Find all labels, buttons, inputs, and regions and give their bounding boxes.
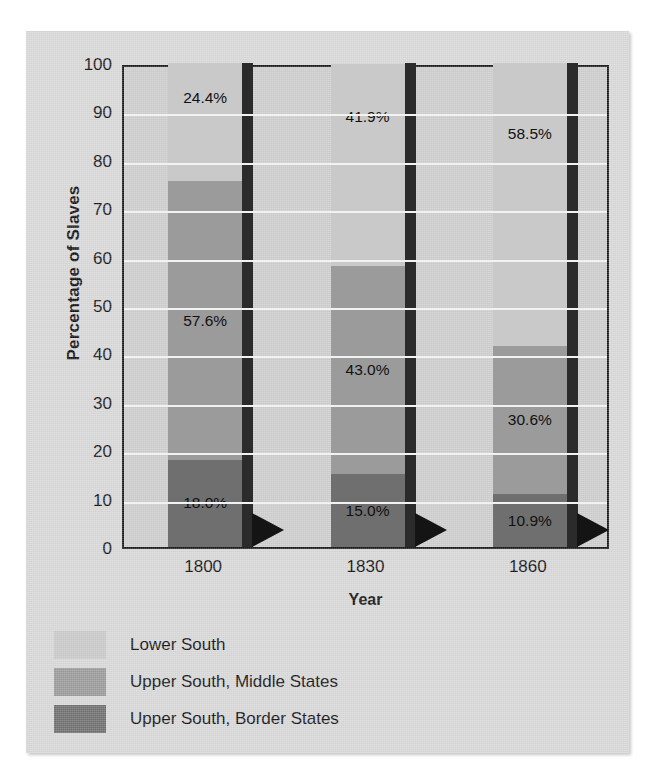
figure-card: Percentage of Slaves 0102030405060708090…	[26, 31, 629, 753]
bar-group-1800[interactable]: 18.0%57.6%24.4%	[168, 67, 242, 547]
bar-segment-1830-1[interactable]: 43.0%	[331, 266, 405, 474]
bar-stack: 15.0%43.0%41.9%	[331, 67, 405, 547]
bar-group-1860[interactable]: 10.9%30.6%58.5%	[493, 67, 567, 547]
y-axis-tick-100: 100	[84, 55, 112, 75]
bar-series-layer: 18.0%57.6%24.4%15.0%43.0%41.9%10.9%30.6%…	[124, 67, 607, 547]
y-axis-tick-10: 10	[93, 491, 112, 511]
x-axis-tick-labels: 180018301860	[122, 557, 609, 583]
y-axis-tick-0: 0	[103, 539, 112, 559]
bar-arrow-icon	[252, 513, 284, 547]
bar-arrow-icon	[415, 513, 447, 547]
bar-value-label: 18.0%	[168, 494, 242, 512]
legend-item-2[interactable]: Upper South, Border States	[54, 700, 614, 737]
bar-value-label: 43.0%	[331, 361, 405, 379]
bar-value-label: 24.4%	[168, 89, 242, 107]
bar-segment-1830-0[interactable]: 41.9%	[331, 64, 405, 267]
y-axis-tick-30: 30	[93, 394, 112, 414]
chart-legend: Lower SouthUpper South, Middle StatesUpp…	[54, 626, 614, 737]
bar-shadow	[567, 63, 578, 547]
bar-stack: 18.0%57.6%24.4%	[168, 67, 242, 547]
bar-group-1830[interactable]: 15.0%43.0%41.9%	[331, 67, 405, 547]
y-axis-tick-80: 80	[93, 152, 112, 172]
y-axis-tick-90: 90	[93, 103, 112, 123]
bar-value-label: 58.5%	[493, 125, 567, 143]
bar-segment-1800-1[interactable]: 57.6%	[168, 181, 242, 460]
legend-swatch-1	[54, 668, 106, 696]
bar-value-label: 10.9%	[493, 512, 567, 530]
legend-item-1[interactable]: Upper South, Middle States	[54, 663, 614, 700]
bar-segment-1860-0[interactable]: 58.5%	[493, 63, 567, 346]
legend-label-0: Lower South	[130, 635, 225, 655]
x-axis-tick-1830: 1830	[347, 557, 385, 577]
y-axis-tick-50: 50	[93, 297, 112, 317]
legend-label-2: Upper South, Border States	[130, 709, 339, 729]
bar-shadow	[242, 63, 253, 547]
bar-value-label: 30.6%	[493, 411, 567, 429]
legend-swatch-2	[54, 705, 106, 733]
bar-segment-1800-2[interactable]: 18.0%	[168, 460, 242, 547]
legend-label-1: Upper South, Middle States	[130, 672, 338, 692]
bar-value-label: 41.9%	[331, 108, 405, 126]
legend-swatch-0	[54, 631, 106, 659]
bar-segment-1800-0[interactable]: 24.4%	[168, 63, 242, 181]
y-axis-tick-60: 60	[93, 249, 112, 269]
plot-area: 18.0%57.6%24.4%15.0%43.0%41.9%10.9%30.6%…	[122, 65, 609, 549]
bar-value-label: 15.0%	[331, 502, 405, 520]
bar-shadow	[405, 63, 416, 547]
y-axis-tick-20: 20	[93, 442, 112, 462]
bar-segment-1860-1[interactable]: 30.6%	[493, 346, 567, 494]
x-axis-tick-1860: 1860	[509, 557, 547, 577]
x-axis-title: Year	[122, 591, 609, 609]
bar-segment-1860-2[interactable]: 10.9%	[493, 494, 567, 547]
y-axis-tick-40: 40	[93, 345, 112, 365]
legend-item-0[interactable]: Lower South	[54, 626, 614, 663]
y-axis-tick-labels: 0102030405060708090100	[48, 65, 116, 549]
y-axis-tick-70: 70	[93, 200, 112, 220]
bar-arrow-icon	[577, 513, 609, 547]
bar-stack: 10.9%30.6%58.5%	[493, 67, 567, 547]
bar-value-label: 57.6%	[168, 312, 242, 330]
x-axis-tick-1800: 1800	[184, 557, 222, 577]
bar-segment-1830-2[interactable]: 15.0%	[331, 474, 405, 547]
